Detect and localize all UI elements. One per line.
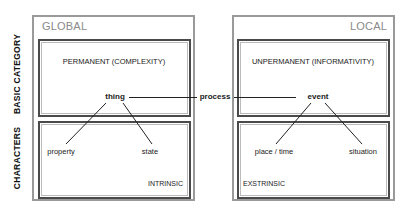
- connector-lines: [0, 0, 410, 212]
- line-event-situation: [325, 103, 362, 144]
- line-event-place-time: [276, 103, 311, 144]
- line-thing-property: [66, 103, 106, 144]
- line-thing-state: [123, 103, 152, 144]
